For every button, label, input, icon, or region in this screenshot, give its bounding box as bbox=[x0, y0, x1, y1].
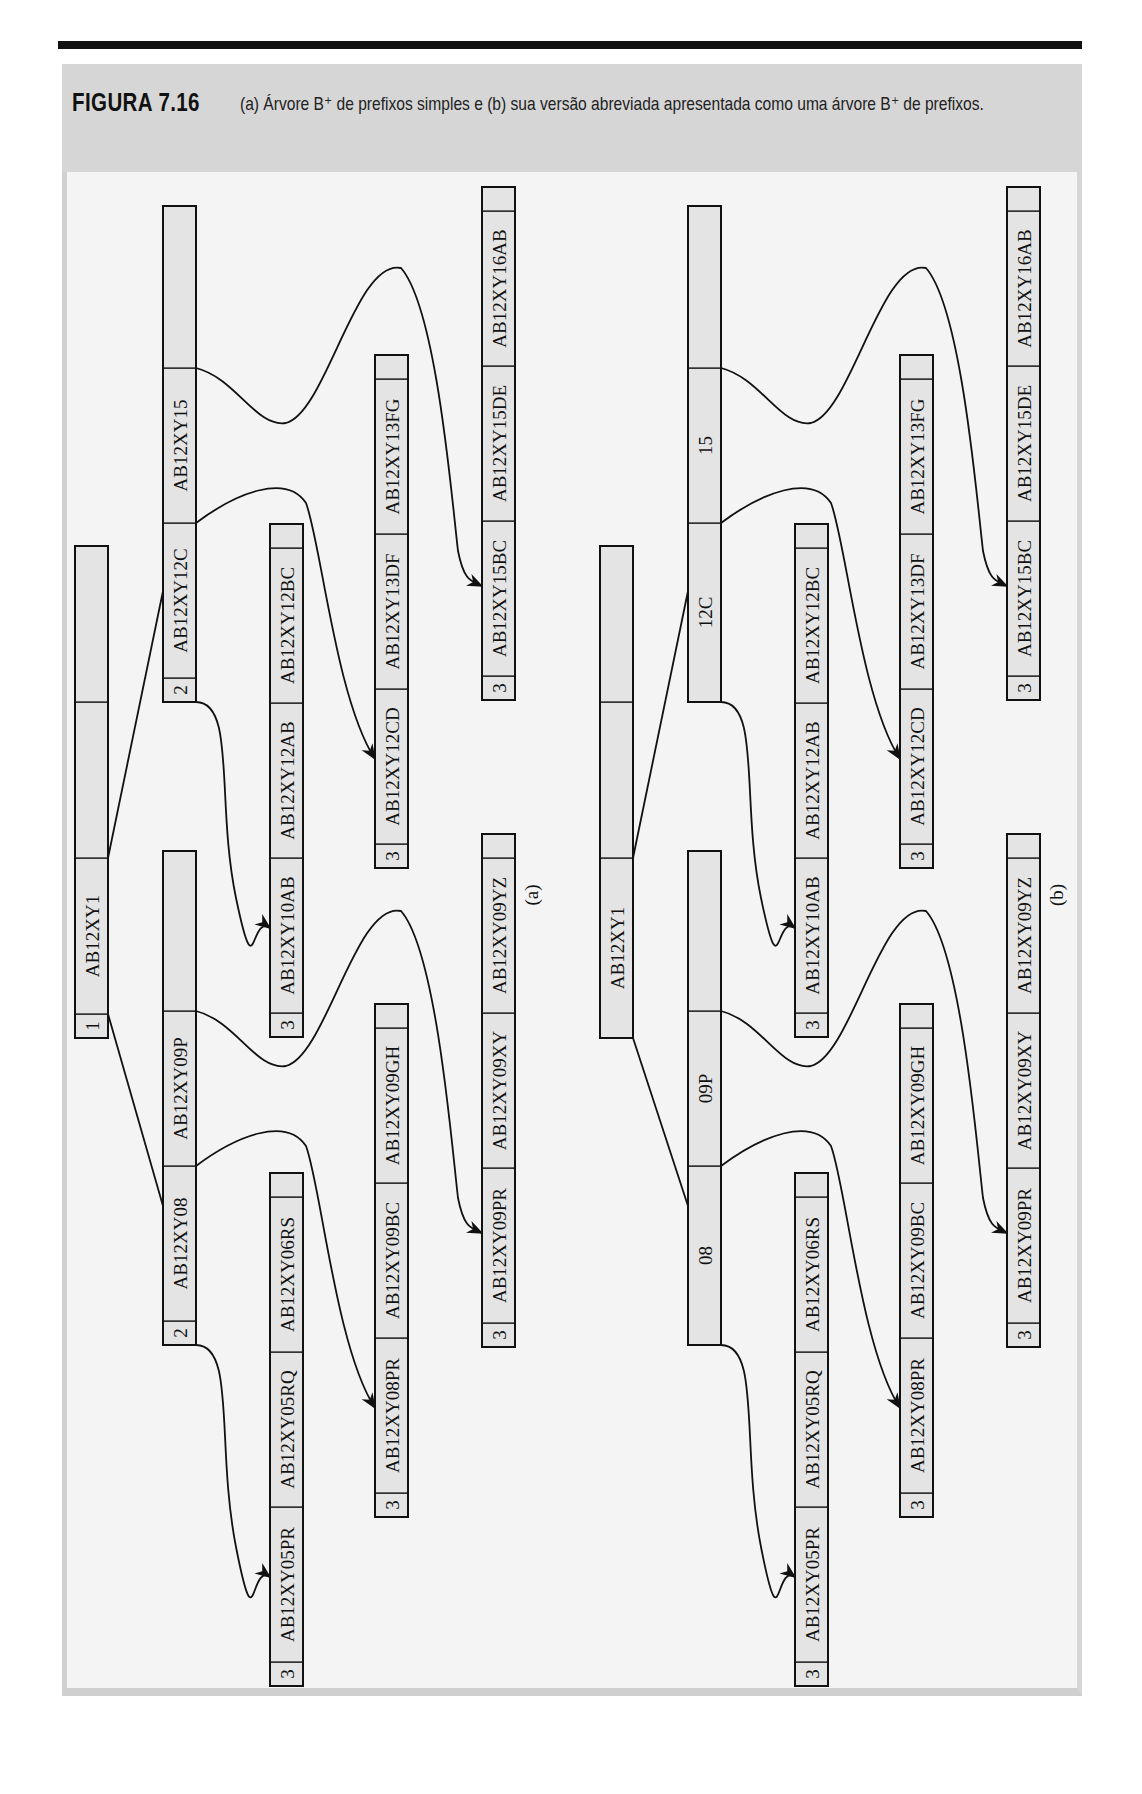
leaf-node-b-4: 3AB12XY12CDAB12XY13DFAB12XY13FG bbox=[900, 355, 933, 868]
root-count-cell-text: 1 bbox=[82, 1021, 103, 1031]
leaf-key-cell-text: AB12XY09GH bbox=[907, 1046, 928, 1166]
index-key-cell-text: AB12XY12C bbox=[170, 548, 191, 653]
pointer-link bbox=[721, 911, 1007, 1233]
leaf-key-cell-text: AB12XY05RQ bbox=[277, 1370, 298, 1489]
root-empty-cell bbox=[75, 702, 108, 858]
leaf-key-cell-text: AB12XY06RS bbox=[802, 1217, 823, 1332]
leaf-key-cell-text: AB12XY16AB bbox=[489, 229, 510, 347]
index-key-cell-text: 08 bbox=[695, 1246, 716, 1265]
leaf-key-cell-text: AB12XY12CD bbox=[907, 707, 928, 825]
root-empty-cell bbox=[75, 546, 108, 702]
leaf-key-cell-text: AB12XY09BC bbox=[907, 1202, 928, 1319]
leaf-empty-cell bbox=[375, 355, 408, 379]
leaf-empty-cell bbox=[1007, 187, 1040, 211]
leaf-key-cell-text: AB12XY13FG bbox=[382, 398, 403, 514]
index-count-cell-text: 2 bbox=[170, 1328, 191, 1338]
leaf-key-cell-text: AB12XY15DE bbox=[489, 385, 510, 502]
leaf-key-cell-text: AB12XY09YZ bbox=[1014, 877, 1035, 994]
index-empty-cell bbox=[688, 206, 721, 368]
leaf-key-cell-text: AB12XY09YZ bbox=[489, 877, 510, 994]
leaf-empty-cell bbox=[900, 355, 933, 379]
pointer-link bbox=[721, 268, 1007, 586]
leaf-node-b-1: 3AB12XY08PRAB12XY09BCAB12XY09GH bbox=[900, 1004, 933, 1517]
pointer-link bbox=[633, 591, 688, 858]
pointer-link bbox=[721, 702, 795, 946]
leaf-count-cell-text: 3 bbox=[489, 1330, 510, 1340]
index-node-right-b: 12C15 bbox=[688, 206, 721, 702]
leaf-key-cell-text: AB12XY09GH bbox=[382, 1046, 403, 1166]
leaf-key-cell-text: AB12XY12AB bbox=[277, 721, 298, 839]
leaf-count-cell-text: 3 bbox=[907, 851, 928, 861]
leaf-node-a-1: 3AB12XY08PRAB12XY09BCAB12XY09GH bbox=[375, 1004, 408, 1517]
leaf-key-cell-text: AB12XY09PR bbox=[1014, 1188, 1035, 1303]
pointer-link bbox=[196, 1345, 270, 1597]
leaf-key-cell-text: AB12XY09BC bbox=[382, 1202, 403, 1319]
leaf-count-cell-text: 3 bbox=[1014, 683, 1035, 693]
leaf-count-cell-text: 3 bbox=[489, 683, 510, 693]
pointer-link bbox=[108, 1014, 163, 1206]
leaf-key-cell-text: AB12XY05PR bbox=[802, 1527, 823, 1642]
tree-sublabel-b: (b) bbox=[1046, 884, 1068, 906]
index-key-cell-text: AB12XY09P bbox=[170, 1037, 191, 1139]
leaf-key-cell-text: AB12XY09XY bbox=[489, 1031, 510, 1151]
leaf-key-cell-text: AB12XY15BC bbox=[489, 540, 510, 657]
leaf-key-cell-text: AB12XY13FG bbox=[907, 398, 928, 514]
leaf-key-cell-text: AB12XY10AB bbox=[802, 876, 823, 994]
leaf-key-cell-text: AB12XY08PR bbox=[907, 1358, 928, 1473]
leaf-key-cell-text: AB12XY12AB bbox=[802, 721, 823, 839]
root-empty-cell bbox=[600, 702, 633, 858]
leaf-count-cell-text: 3 bbox=[277, 1669, 298, 1679]
leaf-node-b-5: 3AB12XY15BCAB12XY15DEAB12XY16AB bbox=[1007, 187, 1040, 700]
pointer-link bbox=[633, 1038, 688, 1206]
index-empty-cell bbox=[688, 851, 721, 1011]
leaf-key-cell-text: AB12XY12BC bbox=[277, 567, 298, 684]
index-key-cell-text: AB12XY08 bbox=[170, 1198, 191, 1290]
root-key-cell-text: AB12XY1 bbox=[82, 895, 103, 977]
leaf-count-cell-text: 3 bbox=[1014, 1330, 1035, 1340]
leaf-key-cell-text: AB12XY10AB bbox=[277, 876, 298, 994]
root-node-b: AB12XY1 bbox=[600, 546, 633, 1038]
leaf-key-cell-text: AB12XY13DF bbox=[382, 553, 403, 669]
tree-sublabel-a: (a) bbox=[521, 884, 543, 905]
index-key-cell-text: 15 bbox=[695, 436, 716, 455]
leaf-node-b-2: 3AB12XY09PRAB12XY09XYAB12XY09YZ bbox=[1007, 834, 1040, 1347]
pointer-link bbox=[196, 911, 482, 1233]
leaf-node-a-3: 3AB12XY10ABAB12XY12ABAB12XY12BC bbox=[270, 524, 303, 1037]
leaf-key-cell-text: AB12XY12BC bbox=[802, 567, 823, 684]
pointer-link bbox=[196, 702, 270, 946]
root-node-a: 1AB12XY1 bbox=[75, 546, 108, 1038]
root-key-cell-text: AB12XY1 bbox=[607, 907, 628, 989]
leaf-empty-cell bbox=[270, 524, 303, 548]
index-key-cell-text: AB12XY15 bbox=[170, 400, 191, 492]
pointer-link bbox=[108, 591, 163, 858]
index-empty-cell bbox=[163, 851, 196, 1011]
leaf-node-b-3: 3AB12XY10ABAB12XY12ABAB12XY12BC bbox=[795, 524, 828, 1037]
leaf-node-a-5: 3AB12XY15BCAB12XY15DEAB12XY16AB bbox=[482, 187, 515, 700]
leaf-key-cell-text: AB12XY06RS bbox=[277, 1217, 298, 1332]
leaf-key-cell-text: AB12XY05RQ bbox=[802, 1370, 823, 1489]
leaf-count-cell-text: 3 bbox=[802, 1669, 823, 1679]
leaf-count-cell-text: 3 bbox=[907, 1500, 928, 1510]
leaf-empty-cell bbox=[270, 1173, 303, 1197]
leaf-count-cell-text: 3 bbox=[382, 851, 403, 861]
leaf-key-cell-text: AB12XY16AB bbox=[1014, 229, 1035, 347]
leaf-key-cell-text: AB12XY15DE bbox=[1014, 385, 1035, 502]
bplus-tree-diagram: 1AB12XY12AB12XY08AB12XY09P2AB12XY12CAB12… bbox=[0, 0, 1142, 1794]
index-node-right-a: 2AB12XY12CAB12XY15 bbox=[163, 206, 196, 702]
leaf-empty-cell bbox=[1007, 834, 1040, 858]
leaf-count-cell-text: 3 bbox=[802, 1020, 823, 1030]
leaf-key-cell-text: AB12XY05PR bbox=[277, 1527, 298, 1642]
leaf-node-a-2: 3AB12XY09PRAB12XY09XYAB12XY09YZ bbox=[482, 834, 515, 1347]
leaf-node-b-0: 3AB12XY05PRAB12XY05RQAB12XY06RS bbox=[795, 1173, 828, 1686]
index-empty-cell bbox=[163, 206, 196, 368]
leaf-empty-cell bbox=[375, 1004, 408, 1028]
pointer-link bbox=[196, 268, 482, 586]
leaf-empty-cell bbox=[482, 834, 515, 858]
leaf-count-cell-text: 3 bbox=[382, 1500, 403, 1510]
leaf-empty-cell bbox=[482, 187, 515, 211]
leaf-key-cell-text: AB12XY12CD bbox=[382, 707, 403, 825]
leaf-empty-cell bbox=[795, 1173, 828, 1197]
leaf-node-a-0: 3AB12XY05PRAB12XY05RQAB12XY06RS bbox=[270, 1173, 303, 1686]
leaf-key-cell-text: AB12XY09PR bbox=[489, 1188, 510, 1303]
leaf-key-cell-text: AB12XY15BC bbox=[1014, 540, 1035, 657]
